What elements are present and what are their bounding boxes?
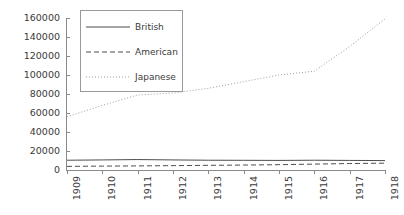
legend-item-american: American <box>81 46 184 58</box>
legend-label-american: American <box>135 47 178 57</box>
legend-label-japanese: Japanese <box>135 72 176 82</box>
legend-swatch-japanese <box>86 72 130 82</box>
legend-swatch-british <box>86 22 130 32</box>
legend-item-british: British <box>81 21 184 33</box>
series-plot <box>0 0 404 215</box>
legend-label-british: British <box>135 22 164 32</box>
chart-legend: British American Japanese <box>80 10 183 92</box>
legend-swatch-american <box>86 47 130 57</box>
line-chart: 0200004000060000800001000001200001400001… <box>0 0 404 215</box>
series-line-british <box>67 160 385 161</box>
legend-item-japanese: Japanese <box>81 71 184 83</box>
series-line-american <box>67 163 385 166</box>
